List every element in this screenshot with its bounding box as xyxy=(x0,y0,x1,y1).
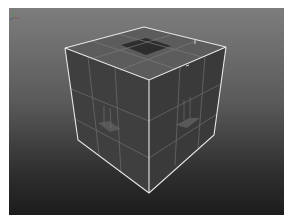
xyz-axis-icon xyxy=(9,8,23,22)
cube-mesh[interactable] xyxy=(9,8,284,215)
3d-viewport[interactable] xyxy=(9,8,284,215)
